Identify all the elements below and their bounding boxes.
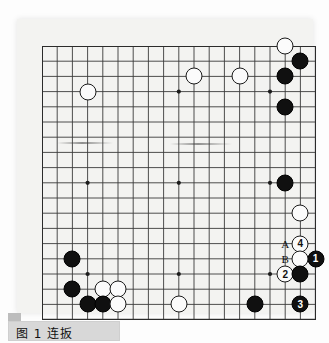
stone-black[interactable] <box>277 68 294 85</box>
go-board-container: 4123 AB <box>17 19 313 313</box>
stone-white[interactable] <box>231 68 248 85</box>
point-label-a: A <box>281 238 289 250</box>
stone-black-move-3[interactable]: 3 <box>292 296 309 313</box>
stone-black[interactable] <box>64 250 81 267</box>
stone-white[interactable] <box>186 68 203 85</box>
figure-caption: 图 1 连扳 <box>16 324 73 341</box>
stone-white[interactable] <box>79 83 96 100</box>
stone-white[interactable] <box>170 296 187 313</box>
stone-black[interactable] <box>277 98 294 115</box>
point-label-b: B <box>282 253 289 265</box>
stone-black[interactable] <box>246 296 263 313</box>
stone-white[interactable] <box>110 296 127 313</box>
stone-black[interactable] <box>292 53 309 70</box>
stone-white[interactable] <box>292 205 309 222</box>
figure-page: 4123 AB 图 1 连扳 <box>0 0 329 343</box>
go-board[interactable]: 4123 AB <box>42 46 316 320</box>
stone-white[interactable] <box>277 38 294 55</box>
stone-black[interactable] <box>64 281 81 298</box>
stone-black[interactable] <box>292 266 309 283</box>
stone-black[interactable] <box>277 174 294 191</box>
stone-black-move-1[interactable]: 1 <box>307 250 324 267</box>
